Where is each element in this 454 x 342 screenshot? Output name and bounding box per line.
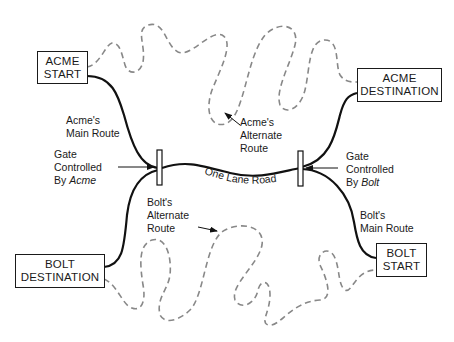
bolt-start-line1: BOLT: [387, 247, 417, 260]
acme-start-line1: ACME: [45, 55, 79, 68]
one-lane-road-label: One Lane Road: [203, 164, 277, 185]
bolt-alternate-pointer-arrow: [198, 227, 217, 231]
acme-main-route-label: Acme's Main Route: [66, 114, 120, 140]
bolt-alternate-route-label: Bolt's Alternate Route: [147, 196, 189, 235]
bolt-destination-line2: DESTINATION: [21, 271, 100, 284]
bolt-alternate-route-line: [104, 226, 376, 325]
acme-alternate-route-label: Acme's Alternate Route: [240, 116, 282, 155]
gate-owner-bolt: Bolt: [361, 176, 379, 188]
gate-bolt: [298, 151, 303, 186]
acme-start-line2: START: [44, 68, 82, 81]
acme-alternate-pointer-arrow: [225, 113, 240, 125]
acme-destination-box: ACME DESTINATION: [357, 68, 442, 102]
bolt-main-route-label: Bolt's Main Route: [360, 209, 414, 235]
gate-bolt-label: Gate Controlled By Bolt: [346, 150, 394, 189]
bolt-destination-line1: BOLT: [45, 258, 75, 271]
bolt-destination-box: BOLT DESTINATION: [15, 254, 105, 288]
acme-alternate-route-line: [87, 24, 357, 124]
acme-destination-line2: DESTINATION: [360, 85, 439, 98]
acme-destination-line1: ACME: [382, 72, 416, 85]
bolt-start-line2: START: [383, 260, 421, 273]
gate-acme: [157, 150, 162, 185]
gate-acme-label: Gate Controlled By Acme: [54, 148, 102, 187]
acme-start-box: ACME START: [37, 51, 88, 84]
bolt-start-box: BOLT START: [376, 243, 427, 277]
gate-owner-acme: Acme: [69, 174, 96, 186]
